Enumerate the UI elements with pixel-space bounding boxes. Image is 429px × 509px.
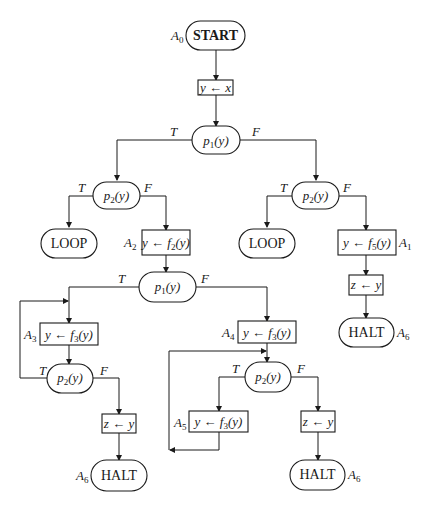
node-label: A2: [123, 235, 136, 252]
edge-p2right-true: [267, 196, 292, 227]
node-start: START A0: [170, 21, 245, 50]
node-a1: y ← f5(y) A1: [338, 230, 411, 255]
label-true: T: [280, 180, 288, 195]
node-text: z ← y: [302, 414, 334, 429]
node-text: p1(y): [154, 279, 180, 296]
node-label: A1: [398, 235, 411, 252]
edge-p2left-false: [140, 196, 166, 230]
node-text: z ← y: [103, 416, 135, 431]
node-text: z ← y: [350, 277, 382, 292]
node-label: A5: [173, 415, 187, 432]
node-p2-lower-mid: p2(y): [245, 362, 291, 392]
node-text: LOOP: [249, 236, 286, 251]
label-true: T: [232, 361, 240, 376]
node-label: A0: [170, 28, 184, 45]
node-p1-top: p1(y): [192, 126, 240, 154]
label-true: T: [170, 124, 178, 139]
label-false: F: [251, 124, 261, 139]
node-text: LOOP: [51, 236, 88, 251]
node-text: HALT: [348, 325, 384, 340]
node-label: A6: [75, 468, 89, 485]
node-text: HALT: [101, 468, 137, 483]
node-loop-left: LOOP: [41, 229, 97, 258]
node-text: y ← f5(y): [341, 235, 391, 252]
label-true: T: [118, 271, 126, 286]
node-text: p2(y): [302, 188, 328, 205]
node-text: y ← f3(y): [43, 327, 93, 344]
node-text: START: [193, 28, 239, 43]
label-false: F: [296, 361, 306, 376]
node-z-right-top: z ← y: [349, 275, 383, 295]
node-text: y ← f3(y): [241, 325, 291, 342]
edge-p2left-true: [69, 196, 93, 227]
node-p2-lower-left: p2(y): [47, 364, 93, 393]
node-p2-left: p2(y): [93, 182, 140, 209]
edge-p2mid-false: [291, 377, 318, 411]
node-a3: y ← f3(y) A3: [23, 323, 98, 345]
label-true: T: [39, 363, 47, 378]
edge-p1-false: [240, 140, 316, 180]
label-true: T: [78, 180, 86, 195]
label-false: F: [342, 180, 352, 195]
node-init: y ← x: [198, 80, 233, 95]
edge-p2mid-true: [219, 377, 245, 411]
node-label: A3: [23, 327, 37, 344]
node-a5: y ← f3(y) A5: [173, 411, 248, 432]
node-text: p2(y): [56, 370, 82, 387]
node-a4: y ← f3(y) A4: [221, 321, 296, 343]
label-false: F: [143, 180, 153, 195]
node-z-left: z ← y: [102, 414, 136, 433]
node-text: y ← f3(y): [193, 414, 243, 431]
flowchart-canvas: T F T F T F T F T F T F START A0 y ← x p…: [0, 0, 429, 509]
node-label: A6: [347, 467, 361, 484]
node-label: A6: [396, 325, 410, 342]
node-text: HALT: [299, 467, 335, 482]
node-text: p1(y): [202, 133, 228, 150]
label-false: F: [200, 271, 210, 286]
edge-a5-loop-bottom: [170, 432, 219, 450]
node-a2: y ← f2(y) A2: [123, 230, 190, 255]
edge-p1-true: [117, 140, 192, 180]
label-false: F: [99, 363, 109, 378]
node-text: p2(y): [103, 188, 129, 205]
node-z-mid: z ← y: [301, 411, 335, 432]
edge-p1mid-false: [196, 287, 267, 321]
node-halt-top-right: HALT A6: [339, 318, 410, 347]
node-text: p2(y): [254, 369, 280, 386]
node-halt-mid: HALT A6: [290, 460, 361, 490]
node-loop-right: LOOP: [239, 229, 295, 258]
edge-p2right-false: [339, 196, 366, 230]
node-text: y ← x: [198, 80, 231, 95]
node-halt-left: HALT A6: [75, 460, 147, 491]
node-p1-mid: p1(y): [139, 272, 196, 302]
edge-p1mid-true: [69, 287, 139, 323]
node-text: y ← f2(y): [140, 235, 190, 252]
edge-p2lowerleft-false: [93, 378, 119, 414]
node-label: A4: [221, 325, 235, 342]
node-p2-right: p2(y): [292, 182, 339, 209]
